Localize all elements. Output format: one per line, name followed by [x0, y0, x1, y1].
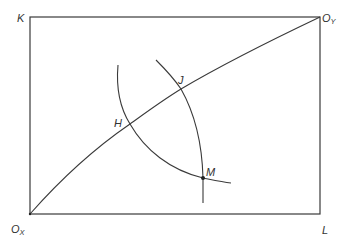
label-origin-x: OX: [11, 223, 26, 237]
label-origin-y-sub: Y: [331, 17, 337, 26]
label-l: L: [322, 224, 328, 236]
contract-curve: [30, 17, 320, 214]
label-origin-x-sub: X: [19, 228, 26, 237]
origin-x-dot: [29, 213, 31, 215]
label-j: J: [177, 74, 184, 86]
label-origin-y: OY: [322, 12, 337, 26]
edgeworth-box-frame: [30, 17, 320, 214]
point-m-dot: [201, 176, 205, 180]
label-k: K: [17, 12, 25, 24]
label-m: M: [206, 166, 216, 178]
edgeworth-box-diagram: K L OX OY H J M: [0, 0, 346, 243]
label-h: H: [114, 117, 122, 129]
